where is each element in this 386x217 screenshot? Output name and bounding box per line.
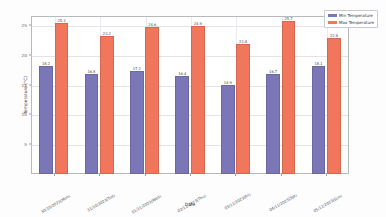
x-axis-title: Date: [31, 202, 349, 207]
bar-max-temperature: 25.3: [55, 23, 69, 174]
bar-value-label: 25.7: [285, 17, 293, 21]
y-tick-label: 20: [21, 52, 27, 57]
bar-group: 14.921.8: [213, 16, 258, 174]
x-tick-mark: [326, 174, 327, 176]
y-axis-ticks: 510152025: [0, 16, 31, 174]
x-tick-mark: [145, 174, 146, 176]
bar-min-temperature: 17.2: [130, 71, 144, 174]
bar-value-label: 24.9: [194, 22, 202, 26]
legend-swatch: [328, 14, 337, 17]
bar-value-label: 24.6: [148, 23, 156, 27]
bar-value-label: 16.4: [178, 72, 186, 76]
x-tick-mark: [281, 174, 282, 176]
bar-max-temperature: 21.8: [236, 44, 250, 174]
bar-value-label: 16.8: [87, 70, 95, 74]
x-tick-mark: [99, 174, 100, 176]
bar-group: 16.725.7: [258, 16, 303, 174]
bars-layer: 18.225.316.823.217.224.616.424.914.921.8…: [31, 16, 349, 174]
y-tick-label: 10: [21, 112, 27, 117]
bar-min-temperature: 14.9: [221, 85, 235, 174]
bar-max-temperature: 25.7: [282, 21, 296, 174]
legend-item: Max Temperature: [328, 20, 374, 25]
bar-value-label: 22.8: [330, 34, 338, 38]
y-tick-label: 5: [24, 142, 27, 147]
bar-min-temperature: 16.7: [266, 74, 280, 174]
x-tick-mark: [54, 174, 55, 176]
bar-group: 16.823.2: [76, 16, 121, 174]
bar-value-label: 23.2: [103, 32, 111, 36]
bar-min-temperature: 18.1: [312, 66, 326, 174]
bar-min-temperature: 18.2: [39, 66, 53, 175]
bar-value-label: 14.9: [224, 81, 232, 85]
legend-label: Min Temperature: [339, 13, 373, 18]
legend-item: Min Temperature: [328, 13, 374, 18]
temperature-bar-chart-figure: Temperature (°C) 510152025 18.225.316.82…: [0, 0, 386, 217]
bar-value-label: 21.8: [239, 40, 247, 44]
y-tick-label: 25: [21, 22, 27, 27]
bar-group: 17.224.6: [122, 16, 167, 174]
bar-group: 16.424.9: [167, 16, 212, 174]
bar-value-label: 18.2: [42, 62, 50, 66]
bar-value-label: 17.2: [133, 67, 141, 71]
bar-group: 18.122.8: [304, 16, 349, 174]
bar-max-temperature: 24.6: [145, 27, 159, 174]
bar-min-temperature: 16.8: [85, 74, 99, 174]
legend-swatch: [328, 21, 337, 24]
bar-value-label: 25.3: [57, 19, 65, 23]
bar-value-label: 16.7: [269, 70, 277, 74]
y-tick-label: 15: [21, 82, 27, 87]
bar-max-temperature: 24.9: [191, 26, 205, 174]
bar-value-label: 18.1: [315, 62, 323, 66]
bar-group: 18.225.3: [31, 16, 76, 174]
x-tick-mark: [190, 174, 191, 176]
x-tick-mark: [235, 174, 236, 176]
legend-label: Max Temperature: [339, 20, 374, 25]
chart-legend: Min TemperatureMax Temperature: [324, 10, 378, 28]
bar-max-temperature: 23.2: [100, 36, 114, 174]
bar-min-temperature: 16.4: [175, 76, 189, 174]
bar-max-temperature: 22.8: [327, 38, 341, 174]
